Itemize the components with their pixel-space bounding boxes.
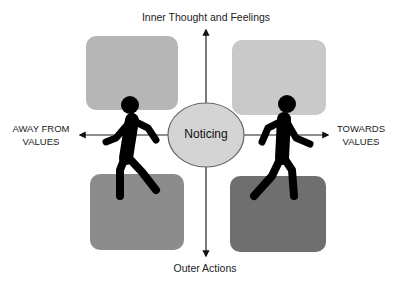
quadrant-bottom-left-box [90,174,184,250]
right-axis-label: TOWARDS VALUES [328,122,394,148]
noticing-label: Noticing [170,128,242,141]
left-axis-label-line2: VALUES [6,135,76,148]
left-axis-label: AWAY FROM VALUES [6,122,76,148]
top-axis-label: Inner Thought and Feelings [126,11,286,24]
right-axis-label-line1: TOWARDS [328,122,394,135]
bottom-axis-label: Outer Actions [150,262,260,275]
right-axis-label-line2: VALUES [328,135,394,148]
quadrant-bottom-right-box [230,176,326,252]
left-axis-label-line1: AWAY FROM [6,122,76,135]
